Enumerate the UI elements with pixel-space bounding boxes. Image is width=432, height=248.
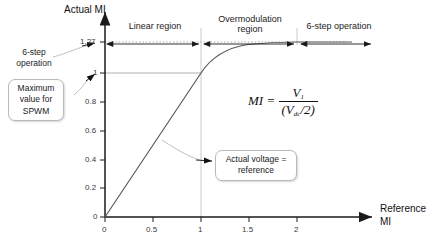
region-label-six-step: 6-step operation xyxy=(299,21,379,31)
y-tick-label-1: 1 xyxy=(93,68,97,77)
y-tick-label-0: 0 xyxy=(93,212,97,221)
x-tick-label-2: 2 xyxy=(294,225,298,234)
y-axis-title: Actual MI xyxy=(64,4,106,16)
figure-canvas: Actual MI Reference MI 1.27 1 0.8 0.6 0.… xyxy=(0,0,432,248)
x-axis-title-line1: Reference xyxy=(380,203,426,215)
x-tick-label-1: 1 xyxy=(198,225,202,234)
x-tick-label-0p5: 0.5 xyxy=(146,225,157,234)
x-tick-label-0: 0 xyxy=(102,225,106,234)
equation-operator: = xyxy=(267,93,274,109)
x-tick-label-1p5: 1.5 xyxy=(242,225,253,234)
x-axis xyxy=(105,217,372,222)
y-tick-label-0p8: 0.8 xyxy=(85,97,96,106)
y-tick-label-1p27: 1.27 xyxy=(80,37,96,46)
annotation-actual-voltage-equals-reference: Actual voltage = reference xyxy=(215,150,297,181)
equation-numerator: V1 xyxy=(289,86,306,101)
x-axis-title-line2: MI xyxy=(380,216,391,228)
y-tick-label-0p4: 0.4 xyxy=(85,155,96,164)
y-tick-label-0p2: 0.2 xyxy=(85,183,96,192)
mi-transfer-curve xyxy=(105,42,352,217)
equation-fraction: V1 (Vdc/2) xyxy=(279,86,318,116)
y-axis xyxy=(100,12,105,217)
leader-maximum-value-spwm xyxy=(74,74,95,95)
region-label-overmodulation: Overmodulation region xyxy=(213,14,287,35)
annotation-maximum-value-for-spwm: Maximum value for SPWM xyxy=(8,79,64,121)
equation-denominator: (Vdc/2) xyxy=(279,101,318,117)
annotation-six-step-operation: 6-step operation xyxy=(8,47,60,70)
leader-actual-voltage-reference xyxy=(162,140,212,161)
equation-lhs: MI xyxy=(248,93,263,109)
region-label-linear: Linear region xyxy=(120,21,190,31)
y-tick-label-0p6: 0.6 xyxy=(85,126,96,135)
chart-svg xyxy=(0,0,432,248)
modulation-index-equation: MI = V1 (Vdc/2) xyxy=(248,86,318,116)
